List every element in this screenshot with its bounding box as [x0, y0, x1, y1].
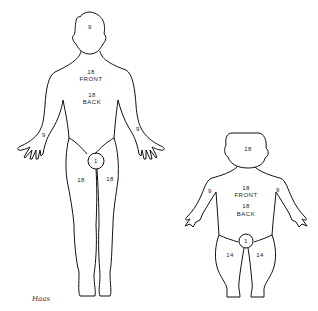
adult-left-leg-value: 18 — [106, 176, 114, 182]
adult-figure — [18, 12, 165, 296]
child-back-label: BACK — [237, 211, 255, 217]
adult-back-value: 18 — [88, 92, 96, 98]
adult-right-leg-value: 18 — [77, 177, 85, 183]
adult-back-label: BACK — [83, 99, 101, 105]
child-right-leg-value: 14 — [226, 252, 234, 258]
artist-signature: Haas — [32, 295, 50, 303]
adult-head-value: 9 — [88, 24, 92, 30]
child-head-value: 18 — [244, 146, 252, 152]
child-left-arm-value: 9 — [276, 187, 280, 193]
adult-perineum-value: 1 — [94, 158, 98, 164]
child-right-arm-value: 9 — [208, 188, 212, 194]
adult-left-arm-value: 9 — [136, 126, 140, 132]
child-left-leg-value: 14 — [256, 252, 264, 258]
adult-right-arm-value: 9 — [42, 132, 46, 138]
body-outlines — [0, 0, 318, 311]
adult-front-label: FRONT — [79, 76, 102, 82]
child-front-label: FRONT — [234, 192, 257, 198]
child-back-value: 18 — [242, 203, 250, 209]
child-perineum-value: 1 — [244, 238, 248, 244]
adult-front-value: 18 — [87, 69, 95, 75]
child-front-value: 18 — [242, 185, 250, 191]
